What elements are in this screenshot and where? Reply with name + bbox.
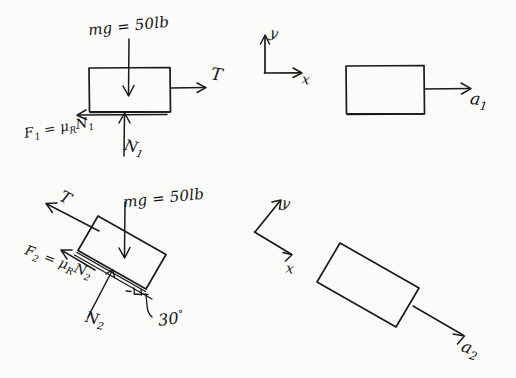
- diagram-canvas: mg = 50lb T F1 = μRN1 N1 y x a1 mg = 50l…: [0, 0, 516, 378]
- tension-arrow-1: [171, 83, 207, 93]
- block-1-rectangle: [89, 68, 171, 113]
- angle-label-2: 30°: [157, 309, 185, 329]
- tension-arrow-2: [46, 203, 99, 231]
- tension-label-1: T: [210, 65, 224, 83]
- acceleration-arrow-2: [413, 306, 465, 344]
- diagram-strokes: [0, 0, 516, 378]
- block-2-kinetic-rectangle: [317, 243, 419, 327]
- acceleration-arrow-1: [425, 83, 472, 94]
- block-1-kinetic-rectangle: [346, 66, 425, 115]
- acceleration-label-1: a1: [469, 90, 490, 113]
- axes-1: [261, 35, 303, 78]
